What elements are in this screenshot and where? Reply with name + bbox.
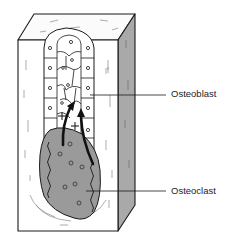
- bone-side-face: [118, 14, 135, 231]
- bone-remodeling-diagram: Osteoblast Osteoclast: [0, 0, 244, 247]
- osteoclast-label: Osteoclast: [171, 186, 216, 196]
- osteoblast-label: Osteoblast: [171, 89, 216, 99]
